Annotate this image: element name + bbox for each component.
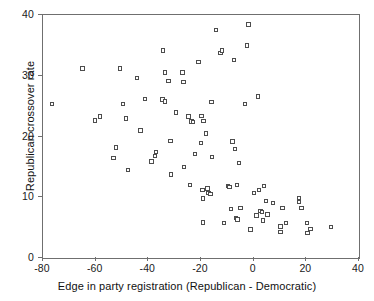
data-point <box>262 184 266 188</box>
data-point <box>238 206 242 210</box>
data-point <box>111 156 115 160</box>
x-tick-label: -20 <box>192 262 207 274</box>
x-tick-label: -40 <box>140 262 155 274</box>
data-point <box>191 120 195 124</box>
data-point <box>230 139 234 143</box>
y-tick-label: 10 <box>22 190 34 202</box>
data-point <box>284 221 288 225</box>
data-point <box>305 221 309 225</box>
x-tick-label: 40 <box>352 262 364 274</box>
data-point <box>153 154 157 158</box>
y-axis-label: Republican crossover rate <box>24 36 36 216</box>
data-point <box>118 66 122 70</box>
data-point <box>246 22 250 26</box>
data-point <box>201 220 205 224</box>
data-point <box>257 188 261 192</box>
data-point <box>200 188 204 192</box>
data-point <box>196 60 200 64</box>
data-point <box>205 186 209 190</box>
data-point <box>220 48 224 52</box>
data-point <box>227 185 231 189</box>
x-tick <box>42 257 43 261</box>
x-tick <box>253 257 254 261</box>
data-point <box>80 66 84 70</box>
data-point <box>201 119 205 123</box>
data-point <box>154 150 158 154</box>
data-point <box>199 141 203 145</box>
x-tick <box>305 257 306 261</box>
data-point <box>181 80 185 84</box>
data-point <box>209 100 213 104</box>
data-point <box>237 161 241 165</box>
data-point <box>138 128 142 132</box>
x-tick <box>95 257 96 261</box>
x-tick-label: -80 <box>34 262 49 274</box>
data-point <box>204 131 208 135</box>
data-point <box>308 227 312 231</box>
data-point <box>186 114 190 118</box>
data-point <box>180 70 184 74</box>
data-point <box>98 114 102 118</box>
y-tick-label: 0 <box>28 251 34 263</box>
data-point <box>233 147 237 151</box>
x-tick-label: -60 <box>87 262 102 274</box>
data-point <box>149 159 153 163</box>
data-point <box>271 201 275 205</box>
y-tick-label: 40 <box>22 8 34 20</box>
y-tick <box>38 14 42 15</box>
data-point <box>329 225 333 229</box>
y-tick-label: 20 <box>22 130 34 142</box>
data-point <box>280 206 284 210</box>
data-point <box>265 212 269 216</box>
scatter-plot-figure: Edge in party registration (Republican -… <box>0 0 374 301</box>
data-point <box>235 217 239 221</box>
data-point <box>229 207 233 211</box>
data-point <box>114 145 118 149</box>
data-point <box>254 213 258 217</box>
y-tick-label: 30 <box>22 69 34 81</box>
data-point <box>182 165 186 169</box>
data-point <box>169 172 173 176</box>
data-point <box>168 139 172 143</box>
data-point <box>235 183 239 187</box>
data-point <box>214 28 218 32</box>
data-point <box>210 155 214 159</box>
data-point <box>264 199 268 203</box>
data-point <box>166 79 170 83</box>
data-point <box>201 196 205 200</box>
data-point <box>260 210 264 214</box>
x-tick-label: 20 <box>299 262 311 274</box>
data-point <box>188 183 192 187</box>
data-point <box>278 224 282 228</box>
data-point <box>126 168 130 172</box>
data-point <box>199 114 203 118</box>
x-tick <box>147 257 148 261</box>
data-point <box>163 70 167 74</box>
data-point <box>208 192 212 196</box>
data-point <box>232 58 236 62</box>
data-point <box>135 76 139 80</box>
data-point <box>50 102 54 106</box>
data-point <box>278 230 282 234</box>
data-point <box>174 110 178 114</box>
data-point <box>93 118 97 122</box>
data-point <box>252 191 256 195</box>
data-point <box>256 94 260 98</box>
data-point <box>222 221 226 225</box>
x-tick <box>200 257 201 261</box>
data-point <box>124 116 128 120</box>
x-tick <box>358 257 359 261</box>
data-point <box>143 97 147 101</box>
data-point <box>121 102 125 106</box>
data-point <box>248 227 252 231</box>
data-point <box>299 206 303 210</box>
data-point <box>161 48 165 52</box>
y-tick <box>38 136 42 137</box>
y-tick <box>38 257 42 258</box>
data-point <box>245 43 249 47</box>
data-point <box>297 200 301 204</box>
data-point <box>163 99 167 103</box>
data-point <box>193 152 197 156</box>
data-point <box>243 102 247 106</box>
x-tick-label: 0 <box>250 262 256 274</box>
